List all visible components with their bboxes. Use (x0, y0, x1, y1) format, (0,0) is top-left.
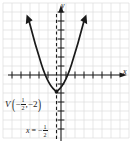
axis-sym-fraction: 12 (43, 124, 48, 138)
axis-sym-equals: = (32, 126, 37, 135)
axis-sym-denominator: 2 (43, 132, 48, 138)
vertex-x-denominator: 2 (21, 105, 26, 111)
vertex-y-value: −2 (28, 99, 38, 109)
vertex-open-paren: ( (11, 97, 14, 112)
vertex-point-name: V (5, 99, 11, 109)
vertex-x-numerator: 1 (21, 97, 26, 103)
vertex-x-fraction: 12 (21, 97, 26, 111)
y-axis (58, 5, 65, 141)
vertex-point (55, 90, 59, 94)
y-axis-label: y (61, 2, 65, 10)
vertex-label: V(−12,−2) (5, 97, 42, 112)
grid-lines (3, 3, 129, 138)
vertex-close-paren: ) (38, 97, 41, 112)
x-axis-label: x (123, 68, 127, 76)
graph-canvas (0, 0, 133, 145)
graph-figure: y x V(−12,−2) x = −12 (0, 0, 133, 145)
axis-of-symmetry-label: x = −12 (26, 124, 48, 138)
axis-sym-numerator: 1 (43, 124, 48, 130)
axis-sym-variable: x (26, 126, 30, 135)
